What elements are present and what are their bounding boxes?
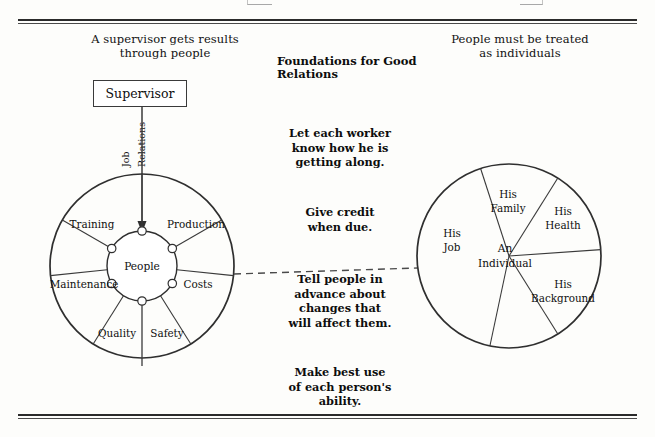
- right-wheel-hub-label-line2: Individual: [478, 257, 532, 269]
- supervisor-box: Supervisor: [93, 80, 187, 107]
- left-wheel-spoke-right: [177, 270, 234, 276]
- advice-item-3: Tell people inadvance aboutchanges thatw…: [265, 272, 415, 330]
- right-wheel-label-background-line2: Background: [531, 292, 595, 304]
- right-wheel-label-background-line1: His: [554, 278, 572, 290]
- right-wheel-label-health-line2: Health: [545, 219, 581, 231]
- advice-item-1: Let each workerknow how he isgetting alo…: [265, 126, 415, 170]
- advice-item-2: Give creditwhen due.: [265, 205, 415, 234]
- advice-item-4: Make best useof each person'sability.: [265, 365, 415, 409]
- connector-label-relations: Relations: [136, 122, 147, 167]
- right-wheel-label-health-line1: His: [554, 205, 572, 217]
- left-wheel-spoke-left: [51, 270, 108, 276]
- hub-node-top: [138, 227, 146, 235]
- left-wheel-hub: [107, 231, 177, 301]
- left-wheel-spoke-lower-right: [161, 296, 191, 344]
- right-wheel-label-job-line2: Job: [442, 241, 460, 253]
- scan-artifact-right: [520, 0, 543, 5]
- left-wheel-label-training: Training: [70, 218, 115, 230]
- hub-node-upper-right: [168, 244, 176, 252]
- right-wheel-label-family-line2: Family: [490, 202, 525, 214]
- left-wheel-label-safety: Safety: [150, 327, 183, 339]
- hub-node-lower-right: [168, 279, 176, 287]
- right-wheel-divider-family-job: [481, 169, 509, 257]
- right-wheel-label-job-line1: His: [443, 227, 461, 239]
- heading-left: A supervisor gets resultsthrough people: [30, 33, 300, 60]
- page-title: Foundations for Good Relations: [277, 55, 437, 81]
- diagram-page: A supervisor gets resultsthrough people …: [0, 0, 655, 437]
- heading-right: People must be treatedas individuals: [405, 33, 635, 60]
- right-wheel-label-family-line1: His: [499, 188, 517, 200]
- left-wheel-spoke-upper-right: [172, 220, 221, 249]
- right-wheel-divider-background-bottom: [509, 256, 558, 334]
- left-wheel-label-quality: Quality: [98, 327, 136, 339]
- supervisor-box-label: Supervisor: [106, 86, 175, 101]
- left-wheel-label-costs: Costs: [183, 278, 212, 290]
- right-wheel-divider-bottom-job: [490, 256, 509, 346]
- left-wheel-rim: [50, 174, 234, 358]
- left-wheel-label-production: Production: [167, 218, 225, 230]
- hub-node-bottom: [138, 297, 146, 305]
- connector-label-job: Job: [120, 151, 131, 167]
- hub-node-lower-left: [108, 279, 116, 287]
- bottom-rule: [18, 414, 637, 419]
- hub-node-upper-left: [108, 244, 116, 252]
- left-wheel-spoke-upper-left: [62, 220, 111, 249]
- left-wheel-label-maintenance: Maintenance: [50, 278, 119, 290]
- left-wheel-hub-label: People: [124, 260, 160, 272]
- left-wheel-spoke-lower-left: [93, 296, 123, 344]
- right-wheel-divider-family-health: [509, 178, 558, 256]
- right-wheel-divider-health-background: [509, 250, 601, 256]
- top-rule: [18, 19, 637, 24]
- right-wheel: An Individual His Family His Health His …: [417, 164, 601, 348]
- scan-artifact-left: [247, 0, 272, 5]
- right-wheel-hub-label-line1: An: [497, 242, 513, 254]
- right-wheel-rim: [417, 164, 601, 348]
- supervisor-connector-arrowhead: [138, 221, 147, 233]
